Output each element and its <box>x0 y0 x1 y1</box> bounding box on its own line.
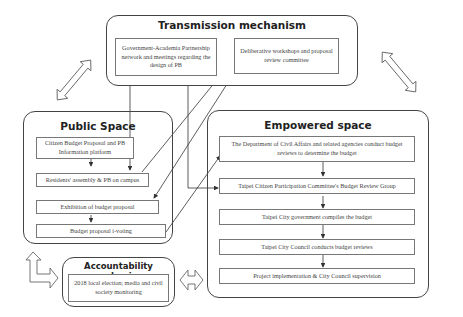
budget-proposal-ivoting-box: Budget proposal i-voting <box>36 224 166 238</box>
bent-double-arrow-public-accountability-icon <box>26 252 58 288</box>
citizen-budget-proposal-box: Citizen Budget Proposal and PB Informati… <box>36 137 134 159</box>
city-council-reviews-box: Taipei City Council conducts budget revi… <box>219 239 415 255</box>
transmission-mechanism-title: Transmission mechanism <box>107 19 357 31</box>
city-government-compiles-box: Taipei City government compiles the budg… <box>219 209 415 225</box>
dept-civil-affairs-box: The Department of Civil Affairs and rela… <box>219 136 415 162</box>
double-arrow-transmission-empowered-icon <box>377 48 421 97</box>
public-space-title: Public Space <box>24 120 172 132</box>
transmission-mechanism-group: Transmission mechanism Government-Academ… <box>106 15 358 86</box>
exhibition-budget-proposal-box: Exhibition of budget proposal <box>36 200 159 214</box>
deliberative-workshops-box: Deliberative workshops and proposal revi… <box>234 38 339 74</box>
empowered-space-title: Empowered space <box>208 119 428 131</box>
gov-academia-partnership-box: Government-Academia Partnership network … <box>115 38 217 76</box>
double-arrow-accountability-empowered-icon <box>180 270 203 290</box>
accountability-mechanism-group: Accountability mechanism 2018 local elec… <box>62 257 175 307</box>
public-space-group: Public Space Citizen Budget Proposal and… <box>23 111 173 244</box>
local-election-monitoring-box: 2018 local election; media and civil soc… <box>68 274 169 302</box>
residents-assembly-box: Residents' assembly & PB on campus <box>36 173 149 187</box>
double-arrow-public-transmission-icon <box>52 56 96 105</box>
empowered-space-group: Empowered space The Department of Civil … <box>207 110 429 298</box>
project-implementation-box: Project implementation & City Council su… <box>219 268 415 284</box>
budget-review-group-box: Taipei Citizen Participation Committee's… <box>219 178 415 194</box>
